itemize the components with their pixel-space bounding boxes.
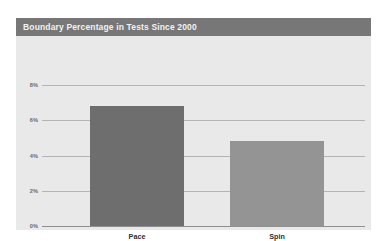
plot-area: 0%2%4%6%8% PaceSpin [16,36,371,230]
bar-pace[interactable] [90,106,184,226]
y-tick-4%: 4% [16,153,38,159]
gridline-8% [42,85,365,86]
y-tick-8%: 8% [16,82,38,88]
gridline-0% [42,226,365,227]
chart-panel: Boundary Percentage in Tests Since 2000 … [16,18,371,230]
chart-title: Boundary Percentage in Tests Since 2000 [16,22,197,32]
chart-title-bar: Boundary Percentage in Tests Since 2000 [16,18,371,36]
x-tick-pace: Pace [90,232,184,241]
x-tick-spin: Spin [230,232,324,241]
y-tick-0%: 0% [16,223,38,229]
bar-spin[interactable] [230,141,324,226]
y-tick-2%: 2% [16,188,38,194]
y-tick-6%: 6% [16,117,38,123]
